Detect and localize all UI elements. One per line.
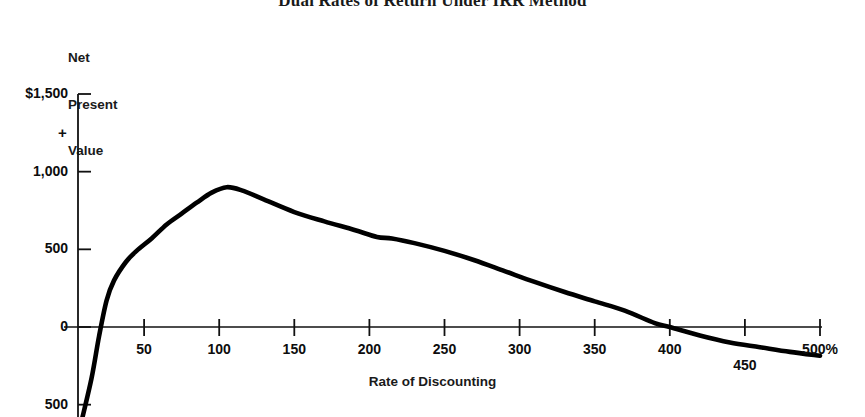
y-tick-label: 0 [0,318,68,334]
x-tick-label: 450 [705,357,785,373]
x-tick-label: 400 [630,341,710,357]
x-tick-label: 200 [329,341,409,357]
x-tick-label: 150 [254,341,334,357]
y-tick-label: 1,000 [0,163,68,179]
y-tick-label: $1,500 [0,85,68,101]
x-axis-title: Rate of Discounting [0,374,865,390]
chart-figure: Dual Rates of Return Under IRR Method Ne… [0,0,865,417]
positive-sign-marker: + [58,124,67,141]
y-tick-marks [78,94,91,405]
x-tick-label: 50 [104,341,184,357]
x-tick-label: 250 [405,341,485,357]
y-tick-label: 500 [0,240,68,256]
x-tick-label: 300 [480,341,560,357]
y-tick-label: 500 [0,396,68,412]
x-tick-label: 500% [780,341,860,357]
x-tick-label: 350 [555,341,635,357]
x-tick-label: 100 [179,341,259,357]
